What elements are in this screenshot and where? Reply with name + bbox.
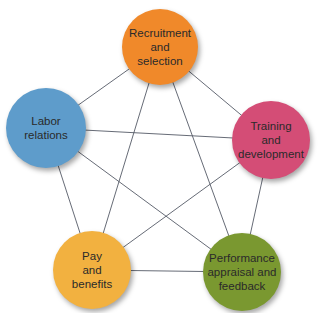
node-label: Recruitment and selection [129, 26, 191, 68]
node-labor-relations: Labor relations [6, 88, 86, 168]
hr-functions-diagram: Recruitment and selection Training and d… [0, 0, 320, 313]
node-label: Labor relations [24, 114, 67, 142]
node-label: Pay and benefits [72, 249, 112, 291]
node-label: Performance appraisal and feedback [207, 251, 276, 293]
node-training-and-development: Training and development [232, 101, 310, 179]
node-recruitment-and-selection: Recruitment and selection [122, 9, 198, 85]
node-pay-and-benefits: Pay and benefits [53, 231, 131, 309]
node-label: Training and development [238, 119, 304, 161]
node-performance-appraisal-and-feedback: Performance appraisal and feedback [203, 233, 281, 311]
